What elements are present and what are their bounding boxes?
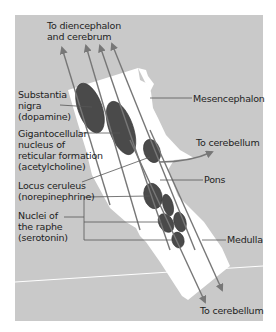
label-raphe: Nuclei of the raphe (serotonin) [18,210,68,243]
label-mesencephalon: Mesencephalon [193,93,265,104]
label-to-diencephalon: To diencephalon and cerebrum [47,20,121,42]
label-line: Substantia [18,89,71,100]
label-line: Nuclei of [18,210,68,221]
label-line: Locus ceruleus [18,180,95,191]
label-line: (acetylcholine) [18,161,103,172]
label-pons: Pons [204,174,225,185]
label-line: and cerebrum [47,31,121,42]
label-to-cerebellum-bottom: To cerebellum [200,305,263,316]
label-medulla: Medulla [227,234,263,245]
label-line: To diencephalon [47,20,121,31]
label-line: (serotonin) [18,232,68,243]
label-line: the raphe [18,221,68,232]
label-line: Gigantocellular [18,128,103,139]
label-line: nigra [18,100,71,111]
label-gigantocellular: Gigantocellular nucleus of reticular for… [18,128,103,172]
label-locus-ceruleus: Locus ceruleus (norepinephrine) [18,180,95,202]
label-substantia-nigra: Substantia nigra (dopamine) [18,89,71,122]
label-line: reticular formation [18,150,103,161]
label-line: nucleus of [18,139,103,150]
label-line: (norepinephrine) [18,191,95,202]
label-to-cerebellum-mid: To cerebellum [196,137,259,148]
label-line: (dopamine) [18,111,71,122]
